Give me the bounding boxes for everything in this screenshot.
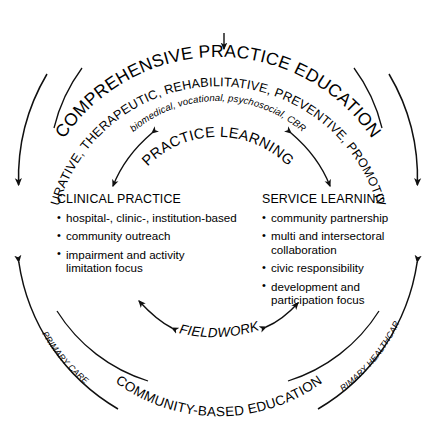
list-item: hospital-, clinic-, institution-based — [57, 211, 243, 224]
service-learning-heading: SERVICE LEARNING — [262, 192, 424, 207]
list-item: community partnership — [262, 211, 424, 224]
service-learning-bullets: community partnership multi and intersec… — [262, 211, 424, 306]
fieldwork-label: FIELDWORK — [178, 318, 261, 340]
list-item: impairment and activity limitation focus — [57, 248, 243, 275]
arrow-practice-to-service — [291, 133, 330, 186]
outer-arc-top-right — [389, 74, 418, 185]
outer-arc-bottom-left — [19, 262, 118, 409]
left-side-label: PRIMARY CARE — [40, 329, 91, 386]
practice-education-diagram: COMPREHENSIVE PRACTICE EDUCATION CURATIV… — [0, 0, 437, 445]
arrow-fieldwork-to-clinical — [139, 301, 172, 328]
list-item: development and participation focus — [262, 280, 424, 307]
clinical-practice-column: CLINICAL PRACTICE hospital-, clinic-, in… — [57, 192, 243, 280]
list-item: civic responsibility — [262, 261, 424, 274]
service-learning-column: SERVICE LEARNING community partnership m… — [262, 192, 424, 311]
list-item: multi and intersectoral collaboration — [262, 229, 424, 256]
outer-arc-top-left — [18, 74, 47, 185]
clinical-practice-heading: CLINICAL PRACTICE — [57, 192, 243, 207]
list-item: community outreach — [57, 229, 243, 242]
practice-learning-label: PRACTICE LEARNING — [139, 124, 298, 169]
clinical-practice-bullets: hospital-, clinic-, institution-based co… — [57, 211, 243, 275]
